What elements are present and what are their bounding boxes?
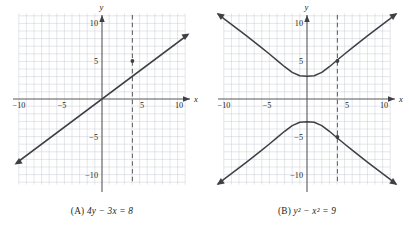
svg-text:10: 10 bbox=[295, 19, 303, 28]
intersection-point-b-upper bbox=[336, 59, 340, 63]
plot-a: x y −10 −5 5 10 10 5 −5 −10 bbox=[0, 0, 204, 205]
svg-text:5: 5 bbox=[94, 57, 98, 66]
intersection-point-a bbox=[131, 59, 135, 63]
svg-text:−10: −10 bbox=[85, 171, 98, 180]
plot-b: x y −10 −5 5 10 10 5 −5 −10 bbox=[205, 0, 409, 205]
panel-a: x y −10 −5 5 10 10 5 −5 −10 bbox=[0, 0, 204, 232]
svg-text:−10: −10 bbox=[218, 101, 231, 110]
x-tick-labels-b: −10 −5 5 10 bbox=[218, 101, 389, 110]
graph-b-svg: x y −10 −5 5 10 10 5 −5 −10 bbox=[205, 0, 409, 205]
svg-text:−10: −10 bbox=[290, 171, 303, 180]
caption-a: (A) 4y − 3x = 8 bbox=[0, 206, 204, 216]
caption-b: (B) y² − x² = 9 bbox=[205, 206, 409, 216]
caption-b-equation: y² − x² = 9 bbox=[294, 206, 337, 216]
y-axis-label-a: y bbox=[99, 2, 104, 12]
svg-text:10: 10 bbox=[380, 101, 388, 110]
svg-text:10: 10 bbox=[90, 19, 98, 28]
caption-a-label: (A) bbox=[71, 206, 85, 216]
svg-text:−5: −5 bbox=[294, 133, 303, 142]
x-axis-label-a: x bbox=[193, 94, 198, 104]
svg-text:−10: −10 bbox=[13, 101, 26, 110]
svg-text:10: 10 bbox=[175, 101, 183, 110]
panel-b: x y −10 −5 5 10 10 5 −5 −10 bbox=[205, 0, 409, 232]
svg-text:5: 5 bbox=[140, 101, 144, 110]
y-axis-a bbox=[99, 15, 104, 192]
x-axis-label-b: x bbox=[398, 94, 403, 104]
svg-text:−5: −5 bbox=[89, 133, 98, 142]
y-axis-label-b: y bbox=[304, 2, 309, 12]
figure-container: x y −10 −5 5 10 10 5 −5 −10 bbox=[0, 0, 409, 232]
svg-text:5: 5 bbox=[345, 101, 349, 110]
caption-a-equation: 4y − 3x = 8 bbox=[87, 206, 133, 216]
svg-text:−5: −5 bbox=[263, 101, 272, 110]
caption-b-label: (B) bbox=[278, 206, 291, 216]
svg-text:−5: −5 bbox=[58, 101, 67, 110]
intersection-point-b-lower bbox=[336, 135, 340, 139]
graph-a-svg: x y −10 −5 5 10 10 5 −5 −10 bbox=[0, 0, 204, 205]
y-axis-b bbox=[304, 15, 309, 192]
svg-text:5: 5 bbox=[299, 57, 303, 66]
